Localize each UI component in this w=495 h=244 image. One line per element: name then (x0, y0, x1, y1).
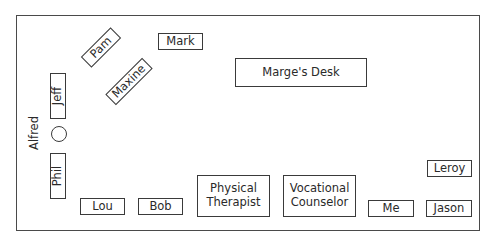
desk-vocational-counselor: Vocational Counselor (283, 175, 356, 217)
desk-label: Marge's Desk (262, 66, 339, 80)
desk-label-line-2: Counselor (291, 196, 349, 210)
desk-jeff: Jeff (50, 73, 66, 119)
desk-phil: Phil (50, 153, 66, 199)
desk-label-line-1: Physical (210, 182, 257, 196)
desk-label: Bob (149, 200, 171, 214)
person-label-alfred: Alfred (27, 113, 41, 153)
desk-label: Me (383, 202, 400, 216)
desk-label: Jason (434, 202, 465, 216)
desk-label: Leroy (434, 162, 466, 176)
desk-mark: Mark (158, 33, 203, 50)
desk-me: Me (368, 200, 414, 217)
desk-label: Lou (92, 200, 113, 214)
desk-jason: Jason (426, 200, 472, 217)
desk-label-line-1: Vocational (290, 182, 350, 196)
desk-label: Mark (166, 35, 194, 49)
desk-label: Phil (51, 166, 65, 187)
desk-leroy: Leroy (427, 160, 472, 177)
desk-physical-therapist: Physical Therapist (197, 175, 270, 217)
desk-label: Jeff (51, 87, 65, 105)
desk-label-line-2: Therapist (206, 196, 260, 210)
desk-marge: Marge's Desk (235, 58, 367, 87)
alfred-seat-icon (51, 126, 67, 142)
desk-lou: Lou (80, 198, 125, 215)
alfred-label-text: Alfred (27, 116, 41, 150)
desk-bob: Bob (138, 198, 183, 215)
